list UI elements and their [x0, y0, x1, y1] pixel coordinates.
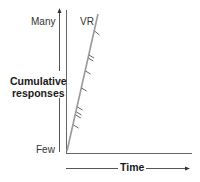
y-axis-title: Cumulative responses: [10, 75, 67, 99]
vr-curve: [67, 14, 100, 151]
y-label-many: Many: [31, 16, 55, 27]
y-label-few: Few: [36, 144, 55, 155]
y-axis-title-line1: Cumulative: [10, 75, 67, 87]
x-axis-title: Time: [118, 162, 146, 173]
axes: [66, 10, 192, 154]
curve-label-vr: VR: [80, 16, 94, 27]
y-axis-title-line2: responses: [10, 87, 67, 99]
reinforcement-marks: [74, 31, 100, 128]
